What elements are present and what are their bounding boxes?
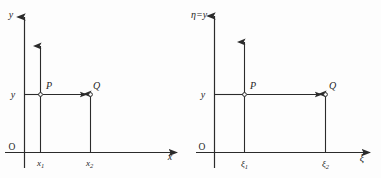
right-panel-tick-xi1: ξ1	[241, 159, 248, 170]
right-panel-point-q-label: Q	[329, 80, 337, 91]
right-panel-point-p-label: P	[249, 80, 256, 91]
left-panel-x-axis-label: x	[167, 151, 173, 162]
figure-canvas: y x O y P Q x1 x2 η=y ξ O y P Q ξ1 ξ2	[0, 0, 381, 178]
left-panel-point-p-marker	[39, 93, 43, 97]
figure-container: y x O y P Q x1 x2 η=y ξ O y P Q ξ1 ξ2	[0, 0, 381, 178]
right-panel-point-p-marker	[243, 93, 247, 97]
right-panel-level-label: y	[200, 89, 206, 100]
left-panel-tick-x2-sub: 2	[90, 162, 94, 169]
right-panel-point-q-marker	[324, 93, 328, 97]
right-panel-origin-label: O	[199, 142, 206, 152]
left-panel-origin-label: O	[9, 142, 16, 152]
right-panel-tick-xi2-sub: 2	[326, 163, 330, 170]
left-panel-level-label: y	[10, 89, 16, 100]
left-panel-point-q-marker	[89, 93, 93, 97]
left-panel-point-q-label: Q	[93, 80, 101, 91]
right-panel-graph	[196, 16, 370, 168]
left-panel-tick-x2: x2	[85, 158, 94, 169]
right-panel-tick-xi1-sub: 1	[245, 163, 248, 170]
left-panel-y-axis-label: y	[8, 9, 14, 20]
left-panel-tick-x1: x1	[36, 158, 44, 169]
right-panel-y-axis-label: η=y	[191, 9, 208, 20]
left-panel-tick-x1-sub: 1	[41, 162, 44, 169]
left-panel-graph	[5, 17, 177, 168]
left-panel-point-p-label: P	[45, 80, 52, 91]
right-panel-x-axis-label: ξ	[360, 152, 365, 164]
right-panel-tick-xi2: ξ2	[322, 159, 330, 170]
